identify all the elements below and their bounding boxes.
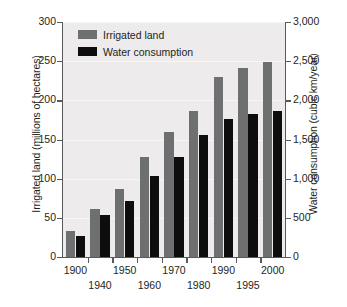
right-axis-tick-label: 1,500 xyxy=(293,133,319,145)
right-axis-tick xyxy=(285,218,291,219)
x-axis-label-1995: 1995 xyxy=(228,279,268,291)
bar-irrigated-land-1980 xyxy=(189,111,198,257)
gridline xyxy=(63,100,285,101)
left-axis-tick-label: 150 xyxy=(0,133,64,145)
gridline xyxy=(63,22,285,23)
legend-swatch-icon-water-consumption xyxy=(78,47,97,56)
bar-irrigated-land-1900 xyxy=(66,231,75,257)
x-axis-tick xyxy=(211,257,212,263)
bar-irrigated-land-1995 xyxy=(238,68,247,257)
bar-irrigated-land-1940 xyxy=(90,209,99,257)
left-axis-tick-label: 300 xyxy=(0,15,64,27)
right-axis-tick-label: 3,000 xyxy=(293,15,319,27)
x-axis-tick xyxy=(236,257,237,263)
bar-water-consumption-1940 xyxy=(100,215,109,257)
bar-water-consumption-1980 xyxy=(199,135,208,257)
right-axis-tick xyxy=(285,179,291,180)
right-axis-tick-label: 1,000 xyxy=(293,172,319,184)
x-axis-label-1950: 1950 xyxy=(105,264,145,276)
bar-water-consumption-1950 xyxy=(125,201,134,257)
x-axis-tick xyxy=(260,257,261,263)
bar-irrigated-land-1990 xyxy=(214,77,223,257)
x-axis-tick xyxy=(186,257,187,263)
x-axis-label-2000: 2000 xyxy=(253,264,293,276)
x-axis-tick xyxy=(88,257,89,263)
right-axis-tick xyxy=(285,100,291,101)
x-axis-tick xyxy=(162,257,163,263)
right-axis-tick xyxy=(285,257,291,258)
bar-irrigated-land-1960 xyxy=(140,157,149,257)
right-axis-tick-label: 2,500 xyxy=(293,54,319,66)
bar-irrigated-land-1970 xyxy=(164,132,173,257)
legend-swatch-icon-irrigated-land xyxy=(78,30,97,39)
left-axis-tick-label: 200 xyxy=(0,93,64,105)
bar-water-consumption-1900 xyxy=(76,236,85,257)
x-axis-label-1940: 1940 xyxy=(80,279,120,291)
legend-item-water-consumption: Water consumption xyxy=(78,45,193,58)
right-axis-tick xyxy=(285,22,291,23)
left-axis-tick-label: 50 xyxy=(0,211,64,223)
legend-label-water-consumption: Water consumption xyxy=(103,46,193,58)
right-axis-tick-label: 2,000 xyxy=(293,93,319,105)
x-axis-label-1960: 1960 xyxy=(129,279,169,291)
bar-water-consumption-2000 xyxy=(273,111,282,257)
x-axis-label-1900: 1900 xyxy=(55,264,95,276)
left-axis-tick-label: 100 xyxy=(0,172,64,184)
right-axis-tick-label: 500 xyxy=(293,211,311,223)
x-axis-label-1970: 1970 xyxy=(154,264,194,276)
bottom-axis-line xyxy=(62,257,287,258)
chart-container: Irrigated land (millions of hectares) Wa… xyxy=(0,0,347,307)
bar-irrigated-land-1950 xyxy=(115,189,124,257)
x-axis-label-1990: 1990 xyxy=(203,264,243,276)
right-axis-tick xyxy=(285,61,291,62)
left-axis-tick-label: 250 xyxy=(0,54,64,66)
x-axis-tick xyxy=(112,257,113,263)
legend-label-irrigated-land: Irrigated land xyxy=(103,29,164,41)
bar-water-consumption-1970 xyxy=(174,157,183,257)
right-axis-tick xyxy=(285,140,291,141)
bar-irrigated-land-2000 xyxy=(263,62,272,257)
legend-item-irrigated-land: Irrigated land xyxy=(78,28,193,41)
right-axis-tick-label: 0 xyxy=(293,250,299,262)
x-axis-label-1980: 1980 xyxy=(179,279,219,291)
left-axis-tick-label: 0 xyxy=(0,250,64,262)
chart-legend: Irrigated land Water consumption xyxy=(78,28,193,62)
bar-water-consumption-1995 xyxy=(248,114,257,257)
bar-water-consumption-1960 xyxy=(150,176,159,257)
x-axis-tick xyxy=(137,257,138,263)
bar-water-consumption-1990 xyxy=(224,119,233,257)
